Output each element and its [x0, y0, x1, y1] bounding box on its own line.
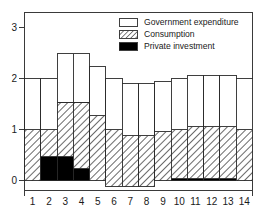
x-tick-label-11: 11 — [190, 196, 201, 207]
bar-segment-government-expenditure-5 — [90, 67, 106, 116]
bar-group-12 — [204, 76, 220, 181]
x-tick-label-3: 3 — [62, 196, 68, 207]
x-tick-label-9: 9 — [160, 196, 166, 207]
legend-swatch-diagonal-hatch — [119, 31, 137, 39]
y-tick-label-0: 0 — [11, 175, 17, 186]
bar-group-11 — [187, 76, 203, 181]
legend-swatch-solid-black — [119, 43, 137, 51]
bar-segment-private-investment-fill-11 — [187, 179, 203, 181]
bar-segment-consumption-14 — [236, 130, 252, 181]
bar-segment-government-expenditure-14 — [236, 79, 252, 130]
bar-group-1 — [25, 79, 41, 181]
bar-segment-private-investment-fill-3 — [57, 157, 73, 181]
bar-segment-government-expenditure-4 — [73, 53, 89, 102]
chart-container: 3 2 1 0 1234567891011121314 — [0, 0, 262, 218]
x-tick-label-5: 5 — [95, 196, 101, 207]
bar-segment-government-expenditure-1 — [25, 79, 41, 130]
bar-segment-government-expenditure-6 — [106, 79, 122, 130]
x-tick-label-13: 13 — [223, 196, 235, 207]
chart-legend: Government expenditure Consumption Priva… — [110, 14, 251, 54]
x-tick-label-7: 7 — [128, 196, 134, 207]
legend-label-consumption: Consumption — [144, 29, 195, 39]
bar-segment-consumption-8 — [139, 136, 155, 187]
x-tick-label-10: 10 — [174, 196, 186, 207]
bar-segment-private-investment-fill-13 — [220, 179, 236, 181]
legend-label-private-investment: Private investment — [144, 41, 215, 51]
bar-group-10 — [171, 79, 187, 181]
x-tick-label-6: 6 — [111, 196, 117, 207]
x-tick-label-8: 8 — [144, 196, 150, 207]
bar-group-14 — [236, 79, 252, 181]
bar-segment-government-expenditure-7 — [122, 84, 138, 136]
bar-segment-consumption-9 — [155, 132, 171, 181]
bar-group-8 — [139, 84, 155, 187]
bar-segment-consumption-12 — [204, 127, 220, 181]
bar-segment-consumption-1 — [25, 130, 41, 181]
bar-segment-private-investment-fill-10 — [171, 179, 187, 181]
bar-segment-private-investment-fill-2 — [41, 157, 57, 181]
bar-segment-consumption-13 — [220, 127, 236, 181]
x-tick-label-14: 14 — [239, 196, 251, 207]
x-tick-label-4: 4 — [79, 196, 85, 207]
bar-group-6 — [106, 79, 122, 187]
x-tick-label-2: 2 — [46, 196, 52, 207]
bar-segment-government-expenditure-9 — [155, 81, 171, 131]
bar-segment-private-investment-fill-12 — [204, 179, 220, 181]
bar-group-2 — [41, 79, 57, 181]
bar-segment-private-investment-fill-4 — [73, 169, 89, 181]
legend-swatch-empty-white — [119, 19, 137, 27]
bar-segment-government-expenditure-12 — [204, 76, 220, 127]
bar-segment-consumption-7 — [122, 136, 138, 187]
bar-group-4 — [73, 53, 89, 181]
stacked-bar-chart: 3 2 1 0 1234567891011121314 — [0, 0, 262, 218]
bar-group-7 — [122, 84, 138, 187]
bar-segment-government-expenditure-3 — [57, 53, 73, 102]
bar-group-5 — [90, 67, 106, 181]
bar-group-3 — [57, 53, 73, 181]
x-tick-label-1: 1 — [30, 196, 36, 207]
bar-segment-government-expenditure-11 — [187, 76, 203, 127]
y-tick-label-1: 1 — [11, 124, 17, 135]
legend-item-government-expenditure: Government expenditure — [119, 17, 239, 27]
bar-segment-government-expenditure-10 — [171, 79, 187, 130]
legend-item-consumption: Consumption — [119, 29, 195, 39]
bar-segment-consumption-6 — [106, 130, 122, 187]
bar-segment-consumption-11 — [187, 127, 203, 181]
bar-segment-government-expenditure-2 — [41, 79, 57, 130]
bar-segment-government-expenditure-8 — [139, 84, 155, 136]
bar-segment-consumption-5 — [90, 116, 106, 181]
legend-label-government-expenditure: Government expenditure — [144, 17, 239, 27]
legend-item-private-investment: Private investment — [119, 41, 215, 51]
bar-group-13 — [220, 76, 236, 181]
y-tick-label-2: 2 — [11, 73, 17, 84]
bar-segment-government-expenditure-13 — [220, 76, 236, 127]
y-tick-label-3: 3 — [11, 22, 17, 33]
bar-segment-consumption-10 — [171, 130, 187, 181]
x-tick-label-12: 12 — [206, 196, 218, 207]
bar-group-9 — [155, 81, 171, 180]
